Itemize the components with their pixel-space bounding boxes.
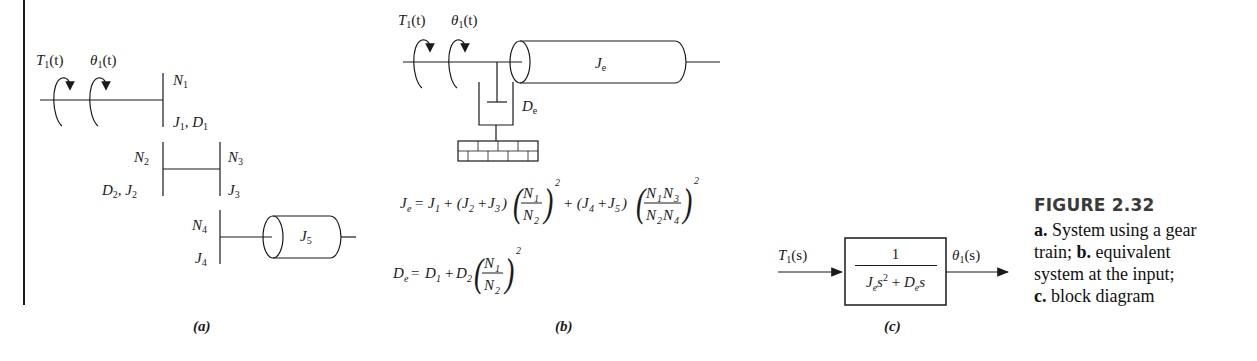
torque-label-a: T1(t) bbox=[36, 52, 64, 70]
svg-text:1: 1 bbox=[495, 263, 500, 274]
svg-text:2: 2 bbox=[555, 177, 560, 188]
caption-line-1: a. System using a gear bbox=[1034, 219, 1257, 241]
gear-d2-j2-label: D2, J2 bbox=[102, 182, 137, 200]
gear-j4-label: J4 bbox=[195, 250, 207, 268]
gear-n2-label: N2 bbox=[134, 149, 149, 167]
caption-line-4: c. block diagram bbox=[1034, 285, 1257, 307]
svg-text:3: 3 bbox=[673, 193, 679, 204]
svg-text:=: = bbox=[414, 195, 424, 211]
panel-c-caption: (c) bbox=[884, 318, 901, 335]
svg-text:N: N bbox=[522, 185, 534, 201]
svg-text:N: N bbox=[662, 185, 674, 201]
figure-title: FIGURE 2.32 bbox=[1034, 195, 1154, 215]
svg-text:4: 4 bbox=[674, 215, 679, 226]
svg-text:): ) bbox=[501, 195, 507, 212]
svg-text:3: 3 bbox=[494, 203, 500, 214]
equation-je-math: Je = J1 + ( J2 + J3 ) ( N1 N2 ) 2 + ( J4… bbox=[400, 172, 740, 234]
svg-text:+ (: + ( bbox=[443, 195, 463, 212]
svg-text:2: 2 bbox=[534, 215, 539, 226]
svg-text:D: D bbox=[424, 265, 436, 281]
torque-label-b: T1(t) bbox=[398, 12, 426, 30]
panel-b-caption: (b) bbox=[555, 318, 573, 335]
svg-text:2: 2 bbox=[495, 285, 500, 296]
svg-text:1: 1 bbox=[435, 203, 440, 214]
svg-text:4: 4 bbox=[589, 203, 594, 214]
svg-text:N: N bbox=[662, 207, 674, 223]
svg-text:5: 5 bbox=[615, 203, 620, 214]
svg-text:2: 2 bbox=[469, 203, 474, 214]
angle-label-a: θ1(t) bbox=[90, 52, 117, 70]
svg-text:2: 2 bbox=[657, 215, 662, 226]
caption-line-2: train; b. equivalent bbox=[1034, 241, 1257, 263]
svg-text:): ) bbox=[621, 195, 627, 212]
equation-de: De = D1 + D2 ( N1 N2 ) 2 D_e = D_1 + D_2… bbox=[393, 242, 553, 304]
svg-text:e: e bbox=[407, 203, 412, 214]
svg-text:1: 1 bbox=[436, 273, 441, 284]
gear-n1-label: N1 bbox=[173, 72, 188, 90]
svg-text:+ (: + ( bbox=[563, 195, 583, 212]
panel-a-caption: (a) bbox=[193, 318, 211, 335]
svg-text:): ) bbox=[681, 180, 692, 225]
svg-text:D: D bbox=[455, 265, 467, 281]
svg-text:N: N bbox=[645, 207, 657, 223]
panel-b-drawing bbox=[403, 40, 720, 161]
inertia-je-label: Je bbox=[595, 55, 606, 73]
svg-text:): ) bbox=[503, 250, 514, 295]
transfer-function: 1 Jes2 + Des J_e s^2 + D_e s bbox=[845, 238, 946, 305]
tf-numerator: 1 bbox=[892, 246, 900, 262]
svg-text:2: 2 bbox=[694, 175, 699, 186]
tf-denominator: Jes2 + Des bbox=[866, 269, 925, 297]
gear-j3-label: J3 bbox=[228, 182, 240, 200]
caption-line-3: system at the input; bbox=[1034, 263, 1257, 285]
svg-text:N: N bbox=[645, 185, 657, 201]
svg-text:1: 1 bbox=[534, 193, 539, 204]
gear-n4-label: N4 bbox=[192, 217, 207, 235]
figure-caption: a. System using a gear train; b. equival… bbox=[1034, 219, 1257, 307]
block-input-label: T1(s) bbox=[778, 247, 807, 265]
gear-j1-d1-label: J1, D1 bbox=[173, 114, 208, 132]
svg-text:): ) bbox=[542, 180, 553, 225]
svg-text:N: N bbox=[522, 207, 534, 223]
svg-text:+: + bbox=[444, 265, 454, 281]
svg-text:N: N bbox=[483, 255, 495, 271]
svg-text:+: + bbox=[477, 195, 487, 211]
svg-text:2: 2 bbox=[516, 245, 521, 256]
angle-label-b: θ1(t) bbox=[451, 12, 478, 30]
block-output-label: θ1(s) bbox=[952, 247, 980, 265]
equation-je: Je = J1 + ( J2 + J3 ) ( N1 N2 ) 2 + ( J4… bbox=[400, 172, 740, 234]
gear-n3-label: N3 bbox=[228, 149, 243, 167]
equation-de-math: De = D1 + D2 ( N1 N2 ) 2 bbox=[393, 242, 553, 304]
svg-text:D: D bbox=[393, 265, 404, 281]
svg-text:1: 1 bbox=[657, 193, 662, 204]
svg-text:N: N bbox=[483, 277, 495, 293]
tf-fraction-bar bbox=[855, 265, 937, 266]
damper-de-label: De bbox=[522, 98, 537, 116]
svg-text:2: 2 bbox=[467, 273, 472, 284]
svg-text:=: = bbox=[410, 265, 420, 281]
svg-text:+: + bbox=[597, 195, 607, 211]
svg-text:e: e bbox=[404, 273, 409, 284]
load-j5-label: J5 bbox=[300, 228, 312, 246]
